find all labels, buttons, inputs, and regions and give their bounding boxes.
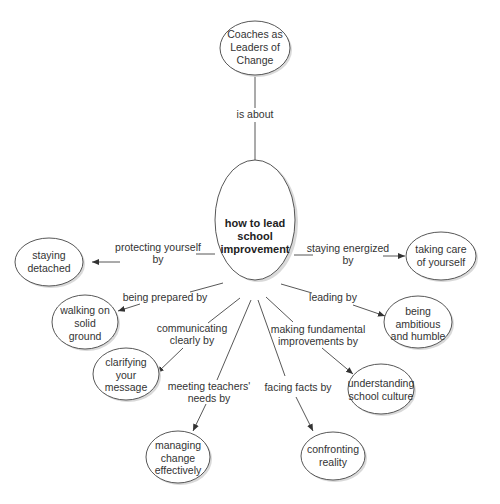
svg-text:is about: is about [237, 108, 274, 120]
svg-text:needs by: needs by [188, 392, 231, 404]
svg-text:being prepared by: being prepared by [123, 291, 208, 303]
svg-text:ground: ground [69, 330, 102, 342]
svg-text:being: being [405, 305, 431, 317]
node-understanding-school-culture[interactable]: understanding school culture [348, 364, 416, 416]
link-label-is-about: is about [237, 108, 274, 120]
svg-text:clearly by: clearly by [170, 334, 215, 346]
node-clarifying-your-message[interactable]: clarifying your message [93, 348, 161, 402]
svg-text:reality: reality [319, 456, 348, 468]
svg-text:communicating: communicating [157, 322, 228, 334]
node-staying-detached[interactable]: staying detached [15, 238, 85, 288]
node-managing-change-effectively[interactable]: managing change effectively [146, 431, 212, 485]
svg-text:effectively: effectively [155, 464, 202, 476]
link-label-making-fundamental-improvements: making fundamental improvements by [271, 323, 366, 347]
svg-text:school: school [237, 230, 272, 242]
node-walking-on-solid-ground[interactable]: walking on solid ground [52, 295, 120, 351]
svg-text:change: change [161, 452, 196, 464]
link-label-staying-energized: staying energized by [307, 242, 389, 266]
svg-text:message: message [105, 381, 148, 393]
svg-text:staying: staying [32, 249, 65, 261]
svg-text:solid: solid [74, 317, 96, 329]
edge-facing-facts [258, 300, 313, 431]
svg-text:clarifying: clarifying [105, 356, 147, 368]
link-label-protecting-yourself: protecting yourself by [115, 241, 201, 265]
svg-text:school culture: school culture [349, 390, 414, 402]
svg-text:taking care: taking care [415, 243, 467, 255]
edge-meeting-teachers-needs [193, 300, 251, 431]
svg-text:staying energized: staying energized [307, 242, 389, 254]
svg-text:improvement: improvement [220, 243, 289, 255]
svg-text:of yourself: of yourself [417, 256, 466, 268]
svg-text:protecting yourself: protecting yourself [115, 241, 201, 253]
svg-text:facing facts by: facing facts by [264, 381, 332, 393]
svg-text:detached: detached [27, 262, 70, 274]
svg-text:ambitious: ambitious [396, 318, 441, 330]
node-coaches-as-leaders-of-change[interactable]: Coaches as Leaders of Change [220, 21, 292, 77]
svg-text:meeting teachers': meeting teachers' [168, 380, 251, 392]
svg-text:understanding: understanding [348, 377, 415, 389]
svg-text:improvements by: improvements by [278, 335, 359, 347]
svg-text:confronting: confronting [307, 443, 359, 455]
node-being-ambitious-and-humble[interactable]: being ambitious and humble [384, 296, 454, 350]
svg-text:managing: managing [155, 439, 201, 451]
node-how-to-lead-school-improvement[interactable]: how to lead school improvement [215, 160, 298, 282]
link-label-being-prepared: being prepared by [123, 291, 208, 303]
svg-text:and humble: and humble [391, 330, 446, 342]
svg-text:making fundamental: making fundamental [271, 323, 366, 335]
svg-text:leading by: leading by [309, 291, 358, 303]
svg-text:your: your [116, 369, 137, 381]
link-label-communicating-clearly: communicating clearly by [157, 322, 228, 346]
svg-text:by: by [342, 254, 354, 266]
node-confronting-reality[interactable]: confronting reality [301, 432, 367, 482]
link-label-meeting-teachers-needs: meeting teachers' needs by [168, 380, 251, 404]
concept-map: is about protecting yourself by staying … [0, 0, 500, 504]
svg-text:Change: Change [237, 54, 274, 66]
svg-text:how to lead: how to lead [225, 217, 286, 229]
link-label-facing-facts: facing facts by [264, 381, 332, 393]
svg-text:by: by [152, 253, 164, 265]
svg-text:walking on: walking on [59, 304, 110, 316]
svg-text:Leaders of: Leaders of [230, 41, 280, 53]
link-label-leading: leading by [309, 291, 358, 303]
node-taking-care-of-yourself[interactable]: taking care of yourself [406, 232, 478, 282]
svg-text:Coaches as: Coaches as [227, 28, 282, 40]
